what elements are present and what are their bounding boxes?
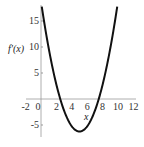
x-tick-label: -2 (21, 101, 29, 112)
curve-series (42, 7, 117, 132)
x-tick-label: 0 (36, 101, 41, 112)
y-tick-label: -5 (31, 119, 39, 130)
x-ticks: -2024681012 (21, 101, 138, 112)
chart: -551015 -2024681012 f'(x) x (0, 0, 144, 147)
y-axis-label: f'(x) (8, 43, 25, 55)
y-tick-label: 15 (29, 15, 39, 26)
x-tick-label: 2 (54, 101, 59, 112)
x-tick-label: 4 (69, 101, 74, 112)
x-tick-label: 8 (100, 101, 105, 112)
x-axis-label: x (83, 111, 89, 122)
y-tick-label: 5 (34, 67, 39, 78)
y-tick-label: 10 (29, 41, 39, 52)
x-tick-label: 10 (113, 101, 123, 112)
x-tick-label: 12 (128, 101, 138, 112)
